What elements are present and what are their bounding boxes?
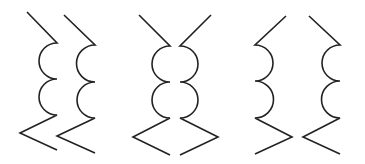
figure-3-left-stroke (255, 16, 292, 154)
figure-3 (255, 16, 340, 154)
figure-1-left-stroke (20, 12, 57, 150)
figure-2-right-stroke (180, 15, 218, 155)
figure-3-right-stroke (303, 16, 340, 154)
diagram-canvas (0, 0, 365, 164)
figure-2-left-stroke (133, 15, 170, 155)
figure-1-right-stroke (57, 15, 95, 153)
figure-1 (20, 12, 95, 153)
figure-2 (133, 15, 218, 155)
